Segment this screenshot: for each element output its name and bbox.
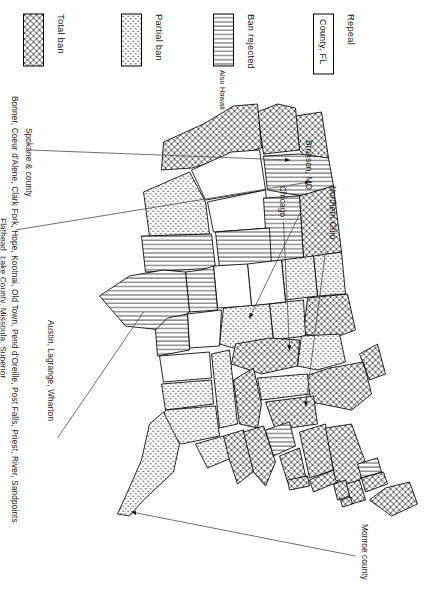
state-north-dakota[interactable] (313, 252, 345, 296)
legend-label-ban-rejected: Ban rejected (245, 14, 256, 69)
annotation-texas[interactable]: Austin, Lagrange, Wharton (45, 312, 143, 438)
state-kansas[interactable] (213, 264, 251, 308)
state-iowa[interactable] (269, 300, 305, 340)
legend-item-ban-rejected[interactable]: Ban rejected Also Hawaii (213, 14, 256, 110)
annotation-label-monroe: Monroe county (359, 524, 368, 581)
annotation-label-montana-list: Flathead, Lake County, Missoula, Superio… (0, 218, 6, 378)
annotation-label-idaho-montana: Bonner, Coeur d'Alene, Clark Fork, Hope,… (9, 96, 18, 523)
state-arkansas[interactable] (187, 310, 221, 348)
state-oklahoma[interactable] (185, 266, 217, 312)
legend-label-repeal: Repeal (345, 14, 356, 45)
us-choropleth-svg: Total ban Partial ban Ban rejected Also … (0, 0, 429, 616)
state-minnesota[interactable] (303, 294, 355, 338)
legend-item-repeal[interactable]: County, FL Repeal (313, 14, 356, 74)
annotation-label-chicago: Chicago (277, 186, 286, 217)
state-oregon[interactable] (257, 104, 299, 154)
legend-item-total-ban[interactable]: Total ban (23, 14, 66, 66)
state-connecticut[interactable] (333, 480, 349, 500)
state-ohio[interactable] (265, 396, 317, 430)
annotation-label-bronson: Bronson, MO (303, 140, 312, 190)
state-florida[interactable] (117, 412, 179, 516)
annotation-label-spokane: Spokane & county (23, 128, 32, 198)
map-states (99, 104, 417, 516)
state-wisconsin[interactable] (297, 334, 345, 370)
annotation-label-northern-ohio: Northern Ohio (327, 186, 336, 240)
state-mississippi[interactable] (159, 352, 211, 382)
legend-item-partial-ban[interactable]: Partial ban (121, 14, 164, 66)
legend-label-total-ban: Total ban (55, 14, 66, 54)
legend-swatch-partial-ban (121, 14, 141, 66)
rotated-figure-wrapper: Total ban Partial ban Ban rejected Also … (0, 0, 429, 616)
legend-note-also-hawaii: Also Hawaii (217, 70, 226, 110)
legend-swatch-ban-rejected (213, 14, 233, 66)
figure-page: Total ban Partial ban Ban rejected Also … (0, 0, 429, 616)
legend: Total ban Partial ban Ban rejected Also … (23, 14, 356, 110)
legend-label-partial-ban: Partial ban (153, 14, 164, 61)
leader-line-texas (57, 312, 143, 438)
state-new-mexico[interactable] (141, 234, 215, 272)
leader-line-monroe (131, 512, 355, 556)
annotation-label-texas: Austin, Lagrange, Wharton (45, 320, 54, 421)
annotation-monroe[interactable]: Monroe county (131, 512, 368, 581)
legend-repeal-county-text: County, FL (317, 19, 327, 64)
state-indiana[interactable] (257, 374, 309, 400)
legend-swatch-total-ban (23, 14, 43, 66)
state-alabama[interactable] (161, 380, 213, 410)
figure-canvas: Total ban Partial ban Ban rejected Also … (0, 0, 429, 616)
